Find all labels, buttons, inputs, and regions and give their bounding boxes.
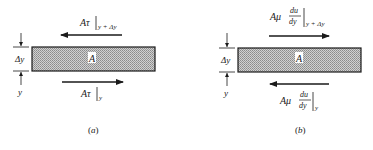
dim-arrowhead-up-b [225,73,229,77]
panel-a: Aτ y + Δy Δy y A Aτ y (a) [13,16,155,135]
top-force-label-a: Aτ [79,17,90,28]
top-force-subscript-a: y + Δy [97,23,117,31]
bottom-force-label-b: Aμ [279,95,291,106]
y-label-a: y [17,87,22,97]
top-force-subscript-b: y + Δy [305,20,325,28]
area-label-b: A [295,53,303,64]
top-frac-num-b: du [290,6,298,15]
caption-b: (b) [295,125,306,135]
panel-b: Aμ du dy y + Δy Δy y A Aμ du dy y (b) [219,6,361,135]
bottom-frac-num-b: du [300,90,308,99]
bottom-force-subscript-b: y [314,104,319,112]
delta-y-label-b: Δy [220,55,230,65]
bottom-force-subscript-a: y [98,94,103,102]
top-force-label-b: Aμ [269,11,281,22]
dim-arrowhead-up-a [19,72,23,76]
diagram-canvas: Aτ y + Δy Δy y A Aτ y (a) Aμ [0,0,373,150]
caption-a: (a) [88,125,99,135]
bottom-frac-den-b: dy [299,101,307,110]
bottom-force-label-a: Aτ [80,88,91,99]
dim-arrowhead-down-b [225,43,229,47]
dim-arrowhead-down-a [19,42,23,46]
delta-y-label-a: Δy [14,54,24,64]
y-label-b: y [223,88,228,98]
top-frac-den-b: dy [289,17,297,26]
area-label-a: A [88,53,96,64]
